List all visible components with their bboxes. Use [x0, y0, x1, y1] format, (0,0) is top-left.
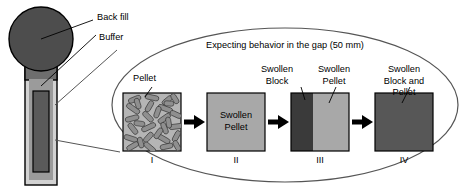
label-swollen-block-line1: Swollen — [261, 64, 293, 76]
stage-numeral-3: III — [316, 156, 324, 166]
label-swollen-block-and-pellet: Swollen Block and Pellet — [374, 64, 435, 99]
callout-pointer-lines — [55, 50, 120, 152]
canister-core — [33, 91, 49, 172]
arrow-1-to-2 — [184, 115, 205, 129]
label-swollen-block-and-pellet-line1: Swollen — [374, 64, 435, 76]
label-swollen-pellet-stage3-line1: Swollen — [318, 64, 350, 76]
label-swollen-block-and-pellet-line2: Block and Pellet — [374, 76, 435, 99]
figure-root: Back fill Buffer Expecting behavior in t… — [0, 0, 465, 193]
arrow-3-to-4 — [352, 115, 373, 129]
stage-4-box — [375, 93, 433, 151]
canister-assembly — [9, 7, 73, 185]
label-swollen-pellet-stage3: Swollen Pellet — [318, 64, 350, 87]
label-pellet: Pellet — [133, 74, 156, 84]
arrow-2-to-3 — [268, 115, 289, 129]
stage-label-leaders — [145, 87, 410, 103]
label-swollen-block-line2: Block — [261, 76, 293, 88]
label-buffer: Buffer — [99, 33, 123, 43]
label-swollen-block: Swollen Block — [261, 64, 293, 87]
label-back-fill: Back fill — [97, 13, 129, 23]
stage-3-box — [291, 93, 349, 151]
stage-numeral-4: IV — [400, 156, 409, 166]
stage-2-box-text-line2: Pellet — [220, 122, 252, 134]
stage-numeral-2: II — [233, 156, 238, 166]
stage-2-box-text-line1: Swollen — [220, 110, 252, 122]
label-swollen-pellet-stage3-line2: Pellet — [318, 76, 350, 88]
stage-3-dark-zone — [291, 93, 313, 151]
callout-pointer-lower — [55, 140, 120, 152]
stage-1-box — [123, 93, 183, 154]
stage-numeral-1: I — [151, 156, 154, 166]
stage-2-box-text: Swollen Pellet — [220, 110, 252, 133]
ellipse-title: Expecting behavior in the gap (50 mm) — [206, 41, 364, 51]
